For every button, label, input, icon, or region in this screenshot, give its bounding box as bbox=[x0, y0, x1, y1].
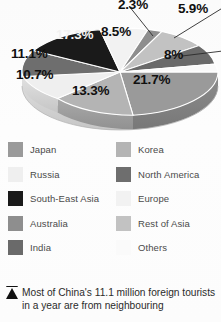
legend-label-europe: Europe bbox=[138, 191, 169, 206]
data-label-korea: 13.3% bbox=[72, 84, 109, 98]
legend-label-rest-of-asia: Rest of Asia bbox=[138, 216, 190, 231]
data-label-india: 8% bbox=[164, 48, 183, 62]
legend-item-south-east-asia[interactable]: South-East Asia bbox=[8, 189, 118, 214]
legend-item-rest-of-asia[interactable]: Rest of Asia bbox=[116, 214, 221, 239]
legend-item-others[interactable]: Others bbox=[116, 238, 221, 263]
legend-swatch-south-east-asia bbox=[8, 191, 23, 206]
data-label-australia: 2.3% bbox=[118, 0, 148, 12]
legend-item-north-america[interactable]: North America bbox=[116, 165, 221, 190]
legend-item-europe[interactable]: Europe bbox=[116, 189, 221, 214]
legend-label-australia: Australia bbox=[30, 216, 68, 231]
legend-swatch-others bbox=[116, 240, 131, 255]
caption-text: Most of China's 11.1 million foreign tou… bbox=[22, 286, 220, 313]
legend-swatch-rest-of-asia bbox=[116, 216, 131, 231]
data-label-south-east-asia: 17.3% bbox=[56, 28, 93, 42]
legend-swatch-north-america bbox=[116, 167, 131, 182]
legend-swatch-korea bbox=[116, 142, 131, 157]
legend-label-russia: Russia bbox=[30, 167, 60, 182]
legend-swatch-russia bbox=[8, 167, 23, 182]
legend-item-russia[interactable]: Russia bbox=[8, 165, 118, 190]
legend-item-india[interactable]: India bbox=[8, 238, 118, 263]
legend-item-korea[interactable]: Korea bbox=[116, 140, 221, 165]
legend-label-japan: Japan bbox=[30, 142, 56, 157]
triangle-bullet-icon-2 bbox=[6, 288, 18, 299]
pie-chart: 17.3% 8.5% 2.3% 5.9% 8% 21.7% 11.1% 10.7… bbox=[0, 0, 221, 140]
data-label-north-america: 11.1% bbox=[11, 47, 48, 61]
data-label-japan: 21.7% bbox=[133, 73, 170, 87]
chart-legend: Japan Russia South-East Asia Australia I… bbox=[0, 140, 221, 268]
triangle-bullet-icon bbox=[6, 286, 18, 287]
legend-column-right: Korea North America Europe Rest of Asia … bbox=[116, 140, 221, 263]
legend-label-korea: Korea bbox=[138, 142, 164, 157]
data-label-europe: 8.5% bbox=[101, 25, 131, 39]
legend-label-others: Others bbox=[138, 240, 167, 255]
legend-swatch-india bbox=[8, 240, 23, 255]
data-label-rest-of-asia: 5.9% bbox=[178, 2, 208, 16]
legend-item-australia[interactable]: Australia bbox=[8, 214, 118, 239]
legend-label-south-east-asia: South-East Asia bbox=[30, 191, 99, 206]
legend-column-left: Japan Russia South-East Asia Australia I… bbox=[8, 140, 118, 263]
legend-swatch-australia bbox=[8, 216, 23, 231]
legend-label-india: India bbox=[30, 240, 51, 255]
data-label-russia: 10.7% bbox=[16, 68, 53, 82]
chart-caption: Most of China's 11.1 million foreign tou… bbox=[0, 286, 221, 322]
page-background: 17.3% 8.5% 2.3% 5.9% 8% 21.7% 11.1% 10.7… bbox=[0, 0, 221, 322]
legend-item-japan[interactable]: Japan bbox=[8, 140, 118, 165]
legend-swatch-europe bbox=[116, 191, 131, 206]
legend-swatch-japan bbox=[8, 142, 23, 157]
legend-label-north-america: North America bbox=[138, 167, 200, 182]
